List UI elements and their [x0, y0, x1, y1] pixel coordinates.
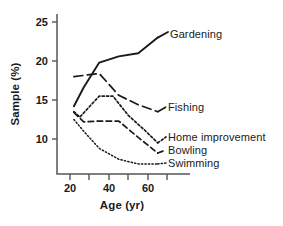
series-line-gardening: [74, 38, 158, 107]
series-label-bowling: Bowling: [168, 144, 207, 156]
series-label-home-improvement: Home improvement: [168, 131, 266, 143]
x-tick-label-40: 40: [97, 182, 121, 194]
series-leader-3: [158, 150, 166, 153]
y-tick-label-10: 10: [26, 133, 48, 145]
series-label-swimming: Swimming: [168, 157, 220, 169]
series-label-fishing: Fishing: [168, 101, 204, 113]
series-layer: [74, 32, 168, 164]
series-leader-2: [158, 137, 166, 143]
x-tick-label-60: 60: [136, 182, 160, 194]
series-line-bowling: [74, 112, 158, 153]
x-axis-ticks: [70, 174, 167, 180]
y-tick-label-15: 15: [26, 94, 48, 106]
series-leader-1: [158, 107, 166, 112]
x-axis-title: Age (yr): [62, 199, 182, 211]
series-line-fishing: [74, 73, 158, 111]
x-tick-label-20: 20: [58, 182, 82, 194]
series-label-gardening: Gardening: [170, 28, 222, 40]
series-line-home-improvement: [74, 96, 158, 143]
series-leader-4: [158, 163, 166, 164]
series-leader-0: [158, 32, 168, 38]
y-axis-title: Sample (%): [9, 59, 21, 129]
series-line-swimming: [74, 120, 158, 164]
y-tick-label-20: 20: [26, 55, 48, 67]
y-tick-label-25: 25: [26, 16, 48, 28]
line-chart-figure: 25 20 15 10 20 40 60 Sample (%) Age (yr)…: [0, 0, 283, 226]
